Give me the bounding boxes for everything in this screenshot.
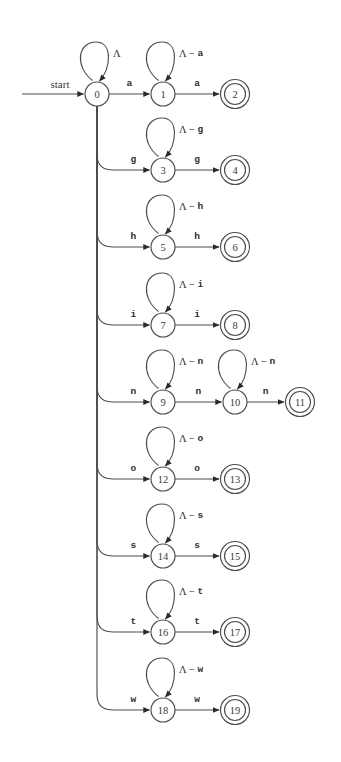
state-label-14: 14 <box>158 551 169 562</box>
self-loop-0 <box>80 42 108 81</box>
state-9[interactable]: 9 <box>151 390 175 414</box>
self-loop-16 <box>146 580 174 619</box>
self-loop-12 <box>146 427 174 466</box>
self-loop-label-18: Λ − w <box>179 664 204 675</box>
state-10[interactable]: 10 <box>223 390 247 414</box>
state-label-13: 13 <box>230 474 241 485</box>
self-loop-label-14: Λ − s <box>179 510 204 521</box>
state-label-17: 17 <box>230 627 241 638</box>
state-0[interactable]: 0 <box>85 82 109 106</box>
state-4-accepting[interactable]: 4 <box>221 156 250 185</box>
transition-label-0-9: n <box>130 386 136 397</box>
state-7[interactable]: 7 <box>151 313 175 337</box>
state-19-accepting[interactable]: 19 <box>221 696 250 725</box>
transition-label-0-18: w <box>130 694 136 705</box>
state-label-9: 9 <box>160 397 165 408</box>
state-label-15: 15 <box>230 551 241 562</box>
transition-label-0-3: g <box>130 154 136 165</box>
transition-label-0-5: h <box>130 231 136 242</box>
self-loop-14 <box>146 504 174 543</box>
self-loop-7 <box>146 273 174 312</box>
state-label-2: 2 <box>232 89 237 100</box>
transition-label-10-11: n <box>263 386 269 397</box>
self-loop-label-3: Λ − g <box>179 124 204 135</box>
transition-label-0-14: s <box>130 540 136 551</box>
transition-label-18-19: w <box>194 694 200 705</box>
transition-0-18 <box>97 106 150 710</box>
transition-label-3-4: g <box>194 154 200 165</box>
state-14[interactable]: 14 <box>151 544 175 568</box>
state-3[interactable]: 3 <box>151 158 175 182</box>
self-loop-9 <box>146 350 174 389</box>
transition-0-5 <box>97 106 150 247</box>
self-loop-18 <box>146 658 174 697</box>
start-arrow-group: start <box>22 78 84 94</box>
state-label-8: 8 <box>232 320 237 331</box>
state-5[interactable]: 5 <box>151 235 175 259</box>
transition-label-9-10: n <box>195 386 201 397</box>
state-17-accepting[interactable]: 17 <box>221 618 250 647</box>
state-1[interactable]: 1 <box>151 82 175 106</box>
state-label-18: 18 <box>158 705 169 716</box>
state-6-accepting[interactable]: 6 <box>221 233 250 262</box>
automaton-diagram: 012345678910111213141516171819 aagghhiin… <box>0 0 341 762</box>
transition-0-7 <box>97 106 150 325</box>
transition-label-5-6: h <box>194 231 200 242</box>
transition-label-0-16: t <box>130 616 136 627</box>
state-label-5: 5 <box>160 242 165 253</box>
state-label-1: 1 <box>160 89 165 100</box>
self-loop-5 <box>146 195 174 234</box>
state-label-4: 4 <box>232 165 238 176</box>
transition-label-16-17: t <box>194 616 200 627</box>
self-loop-1 <box>146 42 174 81</box>
transition-label-0-1: a <box>126 78 132 89</box>
state-15-accepting[interactable]: 15 <box>221 542 250 571</box>
start-label: start <box>51 78 70 90</box>
self-loops-layer <box>80 42 246 697</box>
state-label-12: 12 <box>158 474 169 485</box>
transition-0-9 <box>97 106 150 402</box>
transition-label-1-2: a <box>194 78 200 89</box>
self-loop-label-5: Λ − h <box>179 201 204 212</box>
edges-layer <box>97 94 284 710</box>
self-loop-label-9: Λ − n <box>179 356 204 367</box>
transition-0-16 <box>97 106 150 632</box>
self-loop-10 <box>218 350 246 389</box>
transition-label-0-7: i <box>130 309 136 320</box>
state-16[interactable]: 16 <box>151 620 175 644</box>
self-loop-label-7: Λ − i <box>179 279 204 290</box>
state-12[interactable]: 12 <box>151 467 175 491</box>
state-18[interactable]: 18 <box>151 698 175 722</box>
transition-label-14-15: s <box>194 540 200 551</box>
state-label-6: 6 <box>232 242 237 253</box>
self-loop-label-0: Λ <box>113 48 121 59</box>
state-label-7: 7 <box>160 320 165 331</box>
state-label-10: 10 <box>230 397 241 408</box>
state-label-11: 11 <box>295 397 305 408</box>
self-loop-label-1: Λ − a <box>179 48 204 59</box>
state-label-0: 0 <box>94 89 99 100</box>
state-label-3: 3 <box>160 165 165 176</box>
self-loop-3 <box>146 118 174 157</box>
state-8-accepting[interactable]: 8 <box>221 311 250 340</box>
transition-0-14 <box>97 106 150 556</box>
transition-0-12 <box>97 106 150 479</box>
transition-label-12-13: o <box>194 463 200 474</box>
transition-label-7-8: i <box>194 309 200 320</box>
state-13-accepting[interactable]: 13 <box>221 465 250 494</box>
self-loop-label-12: Λ − o <box>179 433 204 444</box>
self-loop-label-16: Λ − t <box>179 586 203 597</box>
labels-layer: aagghhiinnnoossttwwΛΛ − aΛ − gΛ − hΛ − i… <box>113 48 276 705</box>
self-loop-label-10: Λ − n <box>251 356 276 367</box>
state-label-16: 16 <box>158 627 169 638</box>
state-2-accepting[interactable]: 2 <box>221 80 250 109</box>
transition-0-3 <box>97 106 150 170</box>
state-11-accepting[interactable]: 11 <box>286 388 315 417</box>
state-label-19: 19 <box>230 705 241 716</box>
transition-label-0-12: o <box>130 463 136 474</box>
